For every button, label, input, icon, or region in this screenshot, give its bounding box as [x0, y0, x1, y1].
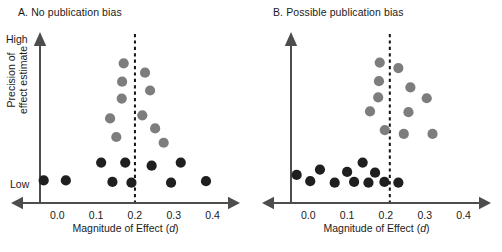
- data-point: [147, 161, 157, 171]
- data-point: [39, 175, 49, 185]
- data-point: [305, 176, 315, 186]
- x-axis-tick-label: 0.1: [340, 209, 355, 221]
- x-axis-title: Magnitude of Effect (d): [251, 222, 502, 234]
- data-point: [111, 132, 121, 142]
- data-point: [107, 177, 117, 187]
- data-point: [422, 93, 432, 103]
- data-point: [120, 157, 130, 167]
- data-point: [330, 178, 340, 188]
- data-point: [140, 68, 150, 78]
- data-point: [373, 92, 383, 102]
- data-point: [292, 170, 302, 180]
- data-point: [374, 76, 384, 86]
- data-point: [427, 129, 437, 139]
- x-axis-title: Magnitude of Effect (d): [0, 222, 251, 234]
- data-point: [119, 58, 129, 68]
- data-point: [358, 157, 368, 167]
- data-point: [349, 177, 359, 187]
- x-axis-title-end: ): [426, 222, 430, 234]
- data-point: [159, 138, 169, 148]
- x-axis-tick-label: 0.1: [89, 209, 104, 221]
- x-axis-tick-label: 0.2: [128, 209, 143, 221]
- data-point: [342, 167, 352, 177]
- data-point: [137, 110, 147, 120]
- data-point: [126, 178, 136, 188]
- data-point: [150, 123, 160, 133]
- data-point: [393, 178, 403, 188]
- data-point: [117, 93, 127, 103]
- x-axis-left-arrow-icon: [11, 197, 23, 209]
- x-axis-tick-label: 0.0: [50, 209, 65, 221]
- x-axis-right-arrow-icon: [228, 197, 240, 209]
- x-axis-tick-label: 0.4: [456, 209, 471, 221]
- data-point: [166, 178, 176, 188]
- panel-a-no-publication-bias: A. No publication bias High Low Precisio…: [0, 0, 251, 252]
- data-point: [117, 77, 127, 87]
- y-axis-arrow-icon: [34, 32, 46, 46]
- data-point: [365, 106, 375, 116]
- x-axis-title-text: Magnitude of Effect (: [323, 222, 420, 234]
- data-point: [375, 58, 385, 68]
- data-point: [96, 157, 106, 167]
- x-axis-tick-label: 0.0: [301, 209, 316, 221]
- y-axis-arrow-icon: [285, 32, 297, 46]
- data-point: [105, 113, 115, 123]
- data-point: [399, 129, 409, 139]
- x-axis-tick-label: 0.2: [379, 209, 394, 221]
- data-point: [403, 107, 413, 117]
- data-point: [315, 164, 325, 174]
- x-axis-tick-label: 0.3: [417, 209, 432, 221]
- data-point: [61, 175, 71, 185]
- funnel-plot-figure: A. No publication bias High Low Precisio…: [0, 0, 502, 252]
- data-point: [405, 82, 415, 92]
- panel-b-possible-publication-bias: B. Possible publication bias Magnitude o…: [251, 0, 502, 252]
- data-point: [380, 125, 390, 135]
- x-axis-left-arrow-icon: [262, 197, 274, 209]
- data-point: [370, 168, 380, 178]
- data-point: [379, 177, 389, 187]
- data-point: [176, 157, 186, 167]
- data-point: [145, 85, 155, 95]
- x-axis-tick-label: 0.3: [166, 209, 181, 221]
- data-point: [363, 178, 373, 188]
- data-point: [393, 63, 403, 73]
- data-point: [201, 176, 211, 186]
- x-axis-tick-label: 0.4: [205, 209, 220, 221]
- x-axis-title-text: Magnitude of Effect (: [72, 222, 169, 234]
- x-axis-right-arrow-icon: [479, 197, 491, 209]
- x-axis-title-end: ): [175, 222, 179, 234]
